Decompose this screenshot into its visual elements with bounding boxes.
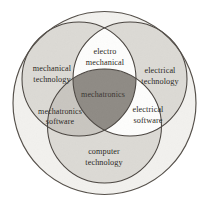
label-computer-technology-line2: technology bbox=[85, 158, 123, 167]
venn-diagram-figure: electro mechanical mechanical technology… bbox=[0, 0, 210, 214]
venn-diagram-canvas: electro mechanical mechanical technology… bbox=[0, 0, 210, 214]
label-electro-mechanical-line1: electro bbox=[94, 47, 117, 56]
label-mechanical-technology-line2: technology bbox=[33, 75, 71, 84]
label-mechatronics-software-line2: software bbox=[46, 117, 75, 126]
label-electrical-software-line1: electrical bbox=[133, 105, 165, 114]
label-computer-technology-line1: computer bbox=[88, 147, 120, 156]
label-electrical-technology-line2: technology bbox=[141, 77, 179, 86]
label-electrical-software-line2: software bbox=[134, 116, 163, 125]
label-mechanical-technology-line1: mechanical bbox=[33, 64, 72, 73]
label-mechatronics: mechatronics bbox=[81, 90, 125, 99]
label-mechatronics-software-line1: mechatronics bbox=[38, 107, 82, 116]
label-electro-mechanical-line2: mechanical bbox=[86, 58, 125, 67]
label-electrical-technology-line1: electrical bbox=[145, 66, 177, 75]
